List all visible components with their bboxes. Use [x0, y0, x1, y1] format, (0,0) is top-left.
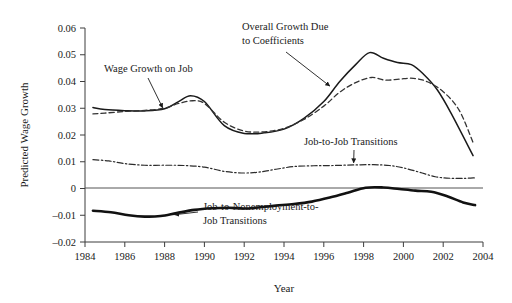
y-tick-label: 0 — [71, 183, 76, 194]
x-tick-label: 1984 — [75, 251, 97, 262]
y-tick-label: 0.03 — [58, 103, 76, 114]
x-tick-label: 1990 — [194, 251, 215, 262]
y-tick-label: 0.01 — [58, 156, 76, 167]
x-tick-label: 1992 — [234, 251, 255, 262]
x-tick-label: 1986 — [114, 251, 135, 262]
predicted-wage-growth-line-chart: 0.060.050.040.030.020.010–0.01–0.02 Pred… — [0, 0, 512, 303]
x-tick-label: 1998 — [353, 251, 374, 262]
x-tick-label: 2002 — [433, 251, 454, 262]
x-axis-title: Year — [274, 282, 295, 294]
y-tick-label: –0.01 — [51, 210, 76, 221]
y-tick-label: 0.02 — [58, 130, 76, 141]
annotation-text: Job Transitions — [203, 215, 267, 226]
x-tick-label: 2000 — [393, 251, 414, 262]
annotation-text: Wage Growth on Job — [104, 63, 193, 74]
y-axis-title: Predicted Wage Growth — [18, 82, 30, 188]
annotation-text: Job-to-Nonemployment-to- — [203, 201, 319, 212]
y-tick-label: 0.05 — [58, 49, 76, 60]
x-tick-label: 1996 — [313, 251, 334, 262]
y-tick-label: –0.02 — [51, 237, 76, 248]
annotation-text: Job-to-Job Transitions — [304, 136, 398, 147]
x-tick-label: 1988 — [154, 251, 175, 262]
x-tick-label: 2004 — [473, 251, 495, 262]
chart-figure: 0.060.050.040.030.020.010–0.01–0.02 Pred… — [0, 0, 512, 303]
x-tick-label: 1994 — [274, 251, 296, 262]
y-tick-label: 0.06 — [58, 23, 76, 34]
annotation-text: Overall Growth Due — [242, 21, 329, 32]
y-tick-label: 0.04 — [58, 76, 77, 87]
annotation-text: to Coefficients — [242, 35, 304, 46]
